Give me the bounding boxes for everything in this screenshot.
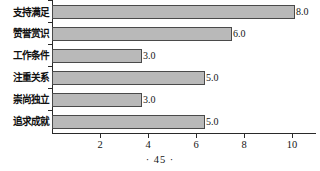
category-label: 支持满足 [3,7,49,18]
bar-value-label: 6.0 [232,29,246,39]
horizontal-bar-chart: 支持满足 赞誉赏识 工作条件 注重关系 崇尚独立 追求成就 8.0 6.0 3.… [0,0,320,171]
bar[interactable] [52,5,295,19]
x-axis-tick [100,134,101,138]
x-axis-tick [244,134,245,138]
bar-value-label: 5.0 [205,117,219,127]
bar[interactable] [52,115,205,129]
y-axis-tick [48,44,52,45]
y-axis-line [52,0,53,134]
category-label: 注重关系 [3,72,49,83]
bar[interactable] [52,93,142,107]
category-label: 赞誉赏识 [3,28,49,39]
bar-value-label: 3.0 [142,95,156,105]
y-axis-tick [48,66,52,67]
x-axis-tick [148,134,149,138]
x-axis-tick [292,134,293,138]
category-axis-labels: 支持满足 赞誉赏识 工作条件 注重关系 崇尚独立 追求成就 [0,0,52,134]
bar[interactable] [52,27,232,41]
category-label: 追求成就 [3,116,49,127]
category-label: 崇尚独立 [3,94,49,105]
plot-area: 8.0 6.0 3.0 5.0 3.0 5.0 2 4 6 8 1 [52,0,316,134]
y-axis-tick [48,0,52,1]
bar-value-label: 5.0 [205,73,219,83]
y-axis-tick [48,110,52,111]
bar[interactable] [52,49,142,63]
x-axis-tick-label: 6 [186,139,206,151]
page-number: · 45 · [0,154,320,166]
bar-value-label: 8.0 [295,7,309,17]
x-axis-tick [196,134,197,138]
y-axis-tick [48,22,52,23]
y-axis-tick [48,88,52,89]
bar-value-label: 3.0 [142,51,156,61]
x-axis-tick-label: 2 [90,139,110,151]
x-axis-tick-label: 8 [234,139,254,151]
bar[interactable] [52,71,205,85]
x-axis-tick-label: 10 [282,139,302,151]
x-axis-line [52,133,316,134]
category-label: 工作条件 [3,50,49,61]
x-axis-tick-label: 4 [138,139,158,151]
